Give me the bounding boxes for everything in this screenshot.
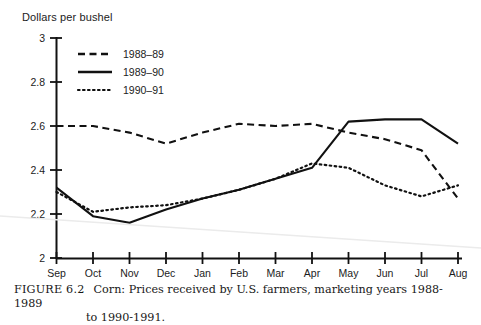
x-tick-label: Jan bbox=[194, 267, 211, 279]
x-tick-label: Jun bbox=[377, 267, 394, 279]
series-line-1989-90 bbox=[57, 119, 459, 222]
legend-label: 1990–91 bbox=[123, 84, 164, 96]
y-tick-label: 2 bbox=[39, 252, 45, 264]
x-tick-label: Oct bbox=[85, 267, 101, 279]
x-tick-label: Nov bbox=[120, 267, 139, 279]
series-line-1990-91 bbox=[57, 163, 459, 211]
x-axis-tick-labels: SepOctNovDecJanFebMarAprMayJunJulAug bbox=[47, 267, 467, 279]
chart-legend: 1988–891989–901990–91 bbox=[78, 48, 164, 96]
data-series-group bbox=[57, 119, 459, 222]
y-axis-tick-labels: 22.22.42.62.83 bbox=[30, 32, 45, 264]
series-line-1988-89 bbox=[57, 124, 459, 199]
y-tick-label: 2.4 bbox=[30, 164, 45, 176]
y-tick-label: 2.8 bbox=[30, 76, 45, 88]
x-tick-label: Jul bbox=[415, 267, 428, 279]
x-tick-label: Aug bbox=[449, 267, 468, 279]
y-tick-label: 2.2 bbox=[30, 208, 45, 220]
y-tick-label: 3 bbox=[39, 32, 45, 44]
chart-axes bbox=[56, 37, 462, 259]
x-tick-label: Feb bbox=[230, 267, 248, 279]
x-tick-label: May bbox=[339, 267, 360, 279]
x-tick-label: Sep bbox=[47, 267, 66, 279]
y-tick-label: 2.6 bbox=[30, 120, 45, 132]
figure-caption-label: FIGURE 6.2 bbox=[14, 283, 85, 296]
x-tick-label: Apr bbox=[304, 267, 321, 279]
legend-label: 1989–90 bbox=[123, 66, 164, 78]
x-tick-label: Mar bbox=[266, 267, 285, 279]
figure-caption-line2: to 1990-1991. bbox=[86, 311, 469, 325]
legend-label: 1988–89 bbox=[123, 48, 164, 60]
figure-caption: FIGURE 6.2Corn: Prices received by U.S. … bbox=[14, 283, 469, 325]
x-tick-label: Dec bbox=[157, 267, 176, 279]
